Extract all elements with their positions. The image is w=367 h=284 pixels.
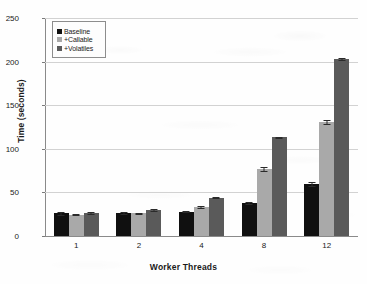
bar-slot bbox=[146, 18, 161, 236]
error-bar-cap bbox=[198, 206, 205, 207]
bar-volatiles-12[interactable] bbox=[334, 59, 349, 236]
bar-slot bbox=[334, 18, 349, 236]
error-bar-cap bbox=[338, 58, 345, 59]
bar-group bbox=[233, 18, 296, 236]
error-bar-cap bbox=[323, 124, 330, 125]
bar-slot bbox=[116, 18, 131, 236]
error-bar-cap bbox=[323, 120, 330, 121]
error-bar-cap bbox=[120, 214, 127, 215]
bar-slot bbox=[194, 18, 209, 236]
bar-volatiles-8[interactable] bbox=[272, 137, 287, 236]
bar-group bbox=[170, 18, 233, 236]
y-tick-label: 50 bbox=[0, 188, 19, 197]
legend-swatch-icon bbox=[57, 46, 62, 51]
legend-item[interactable]: +Callable bbox=[57, 36, 101, 43]
bar-slot bbox=[319, 18, 334, 236]
bar-slot bbox=[242, 18, 257, 236]
error-bar-cap bbox=[58, 215, 65, 216]
bar-callable-1[interactable] bbox=[69, 215, 84, 236]
bar-slot bbox=[257, 18, 272, 236]
error-bar-cap bbox=[135, 214, 142, 215]
legend-label: +Callable bbox=[64, 36, 92, 43]
x-tick-label: 2 bbox=[108, 241, 171, 250]
error-bar-cap bbox=[88, 214, 95, 215]
legend-item[interactable]: Baseline bbox=[57, 28, 101, 35]
bar-group bbox=[295, 18, 358, 236]
bar-slot bbox=[179, 18, 194, 236]
legend-swatch-icon bbox=[57, 29, 62, 34]
y-tick-label: 0 bbox=[0, 232, 19, 241]
x-axis-label: Worker Threads bbox=[0, 262, 367, 272]
bar-volatiles-2[interactable] bbox=[146, 210, 161, 236]
bar-baseline-1[interactable] bbox=[54, 213, 69, 236]
error-bar-cap bbox=[183, 212, 190, 213]
legend-label: +Volatiles bbox=[64, 45, 93, 52]
x-tick-label: 8 bbox=[233, 241, 296, 250]
x-tick-label: 4 bbox=[170, 241, 233, 250]
y-tick-label: 100 bbox=[0, 145, 19, 154]
error-bar-cap bbox=[150, 211, 157, 212]
error-bar-cap bbox=[73, 215, 80, 216]
error-bar-cap bbox=[308, 186, 315, 187]
y-tick-label: 150 bbox=[0, 101, 19, 110]
x-tick-label: 12 bbox=[295, 241, 358, 250]
error-bar-cap bbox=[58, 212, 65, 213]
bar-volatiles-1[interactable] bbox=[84, 213, 99, 236]
bar-slot bbox=[209, 18, 224, 236]
error-bar-cap bbox=[261, 167, 268, 168]
bar-chart: Time (seconds) 050100150200250 124812 Wo… bbox=[0, 0, 367, 284]
bar-group bbox=[108, 18, 171, 236]
bar-baseline-8[interactable] bbox=[242, 203, 257, 236]
y-tick-label: 250 bbox=[0, 14, 19, 23]
chart-legend: Baseline+Callable+Volatiles bbox=[52, 21, 106, 58]
error-bar-cap bbox=[246, 204, 253, 205]
bar-slot bbox=[304, 18, 319, 236]
legend-label: Baseline bbox=[64, 28, 90, 35]
bar-callable-8[interactable] bbox=[257, 169, 272, 236]
error-bar-cap bbox=[308, 182, 315, 183]
y-tick-mark bbox=[42, 236, 45, 237]
error-bar-cap bbox=[213, 198, 220, 199]
x-axis-ticks: 124812 bbox=[45, 241, 358, 250]
bar-callable-12[interactable] bbox=[319, 122, 334, 236]
error-bar-cap bbox=[246, 202, 253, 203]
bar-baseline-12[interactable] bbox=[304, 184, 319, 236]
x-axis-line bbox=[45, 236, 358, 237]
bar-slot bbox=[272, 18, 287, 236]
error-bar-cap bbox=[198, 208, 205, 209]
error-bar-cap bbox=[338, 60, 345, 61]
bar-volatiles-4[interactable] bbox=[209, 198, 224, 236]
bar-callable-2[interactable] bbox=[131, 213, 146, 236]
y-tick-label: 200 bbox=[0, 58, 19, 67]
x-tick-label: 1 bbox=[45, 241, 108, 250]
bar-callable-4[interactable] bbox=[194, 207, 209, 236]
bar-baseline-2[interactable] bbox=[116, 213, 131, 236]
error-bar-cap bbox=[276, 138, 283, 139]
bar-slot bbox=[131, 18, 146, 236]
legend-swatch-icon bbox=[57, 37, 62, 42]
error-bar-cap bbox=[261, 171, 268, 172]
bar-baseline-4[interactable] bbox=[179, 212, 194, 236]
legend-item[interactable]: +Volatiles bbox=[57, 45, 101, 52]
